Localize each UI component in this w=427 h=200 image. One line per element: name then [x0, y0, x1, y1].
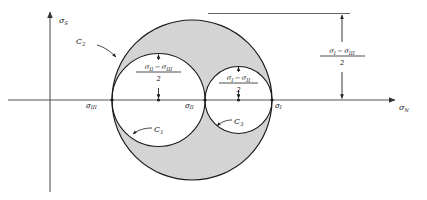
dim-c3-denominator: 2 — [235, 86, 240, 94]
center-tick-C3 — [237, 99, 240, 102]
mohr-circle-diagram: σS σN σIII σII σI σII−σIII 2 σI−σII 2 — [0, 0, 427, 200]
center-tick-C1 — [157, 99, 160, 102]
dim-c1-denominator: 2 — [155, 75, 160, 83]
dim-c2-denominator: 2 — [339, 59, 344, 67]
